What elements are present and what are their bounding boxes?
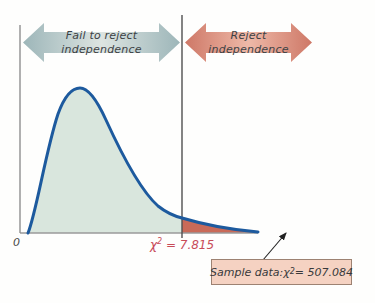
sample-chi-symbol: χ [283,266,290,279]
critical-chi-symbol: χ [150,238,157,252]
axis-origin-label: 0 [13,236,20,249]
fail-region-label: Fail to reject independence [23,29,180,56]
chi-square-figure: Fail to reject independence Reject indep… [0,0,375,303]
fail-region-label-line1: Fail to reject [23,29,180,43]
fail-region-label-line2: independence [23,43,180,57]
sample-data-prefix: Sample data: [210,266,283,279]
sample-data-value: = 507.084 [295,266,353,279]
sample-annotation-arrow [263,233,286,260]
critical-value-label: χ2 = 7.815 [143,238,221,252]
critical-value-text: = 7.815 [162,238,214,252]
reject-region-label-line1: Reject [185,29,312,43]
fail-region-area [28,88,182,233]
reject-region-label: Reject independence [185,29,312,56]
sample-data-callout: Sample data: χ2 = 507.084 [211,259,352,285]
reject-region-label-line2: independence [185,43,312,57]
